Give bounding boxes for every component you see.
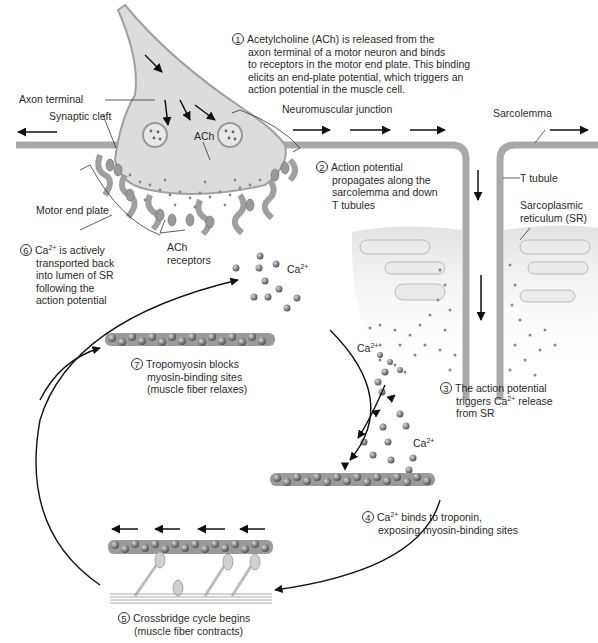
label-ach: ACh <box>194 130 214 143</box>
label-motor-end-plate: Motor end plate <box>36 204 109 217</box>
neuromuscular-diagram <box>0 0 598 643</box>
label-sarcolemma: Sarcolemma <box>493 107 552 120</box>
label-neuromuscular-junction: Neuromuscular junction <box>282 103 392 116</box>
label-axon-terminal: Axon terminal <box>19 93 83 106</box>
step-5: 5Crossbridge cycle begins (muscle fiber … <box>118 612 250 637</box>
step-2: 2Action potential propagates along the s… <box>316 161 438 211</box>
label-t-tubule: T tubule <box>520 172 558 185</box>
sarcoplasmic-reticulum <box>352 225 598 380</box>
step-1: 1Acetylcholine (ACh) is released from th… <box>232 33 470 96</box>
label-ca-left: Ca2+ <box>357 342 378 355</box>
thin-filament-relaxed <box>105 333 275 346</box>
crossbridge-assembly <box>108 540 273 603</box>
step-4: 4Ca2+ binds to troponin, exposing myosin… <box>362 511 518 536</box>
label-ca-right: Ca2+ <box>413 437 434 450</box>
label-synaptic-cleft: Synaptic cleft <box>49 110 111 123</box>
label-ca-top: Ca2+ <box>287 263 308 276</box>
step-7: 7Tropomyosin blocks myosin-binding sites… <box>131 358 247 396</box>
step-3: 3The action potential triggers Ca2+ rele… <box>440 382 553 420</box>
label-ach-receptors: ACh receptors <box>167 241 211 266</box>
label-sarcoplasmic-reticulum: Sarcoplasmic reticulum (SR) <box>520 199 587 224</box>
thin-filament-troponin <box>270 473 435 486</box>
step-6: 6Ca2+ is actively transported back into … <box>20 244 114 307</box>
